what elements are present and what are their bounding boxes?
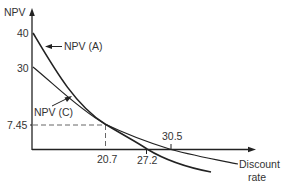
- x-axis-label-line1: Discount: [239, 158, 280, 170]
- x-tick-30-5: 30.5: [162, 130, 183, 142]
- y-tick-30: 30: [17, 62, 29, 74]
- y-tick-7-45: 7.45: [7, 119, 28, 131]
- npv-c-label: NPV (C): [34, 106, 73, 118]
- npv-a-arrow-icon: [45, 44, 52, 49]
- npv-a-label: NPV (A): [64, 40, 103, 52]
- y-axis-label: NPV: [4, 6, 26, 18]
- npv-chart: NPV Discount rate 40 30 7.45 20.7 27.2 3…: [0, 0, 288, 183]
- x-tick-27-2: 27.2: [137, 154, 158, 166]
- y-tick-40: 40: [17, 27, 29, 39]
- x-tick-20-7: 20.7: [97, 153, 118, 165]
- y-axis-arrow-icon: [29, 8, 35, 16]
- x-axis-label-line2: rate: [248, 171, 266, 183]
- x-axis-arrow-icon: [248, 147, 256, 153]
